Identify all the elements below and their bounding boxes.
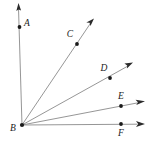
ray-diagram-canvas: A C D E F B	[0, 0, 152, 147]
ray-group-BA: A	[16, 3, 30, 125]
arrowhead-icon-BC	[86, 19, 94, 27]
point-dot-D	[108, 76, 112, 80]
ray-line-BC	[22, 24, 90, 125]
ray-line-BD	[22, 66, 128, 125]
point-label-C: C	[67, 29, 74, 39]
point-dot-C	[75, 42, 79, 46]
arrowhead-icon-BE	[136, 100, 145, 105]
point-label-F: F	[117, 128, 124, 138]
point-dot-F	[119, 122, 123, 126]
ray-group-BD: D	[22, 63, 133, 126]
point-label-D: D	[100, 63, 108, 73]
ray-group-BE: E	[22, 91, 145, 125]
ray-diagram-figure: A C D E F B	[0, 0, 152, 147]
ray-group-BC: C	[22, 19, 94, 126]
point-label-E: E	[117, 91, 124, 101]
ray-group-BF: F	[22, 121, 145, 138]
point-dot-E	[119, 104, 123, 108]
point-label-B: B	[10, 123, 16, 133]
point-dot-B	[20, 123, 24, 127]
point-dot-A	[18, 25, 22, 29]
point-label-A: A	[23, 18, 30, 28]
